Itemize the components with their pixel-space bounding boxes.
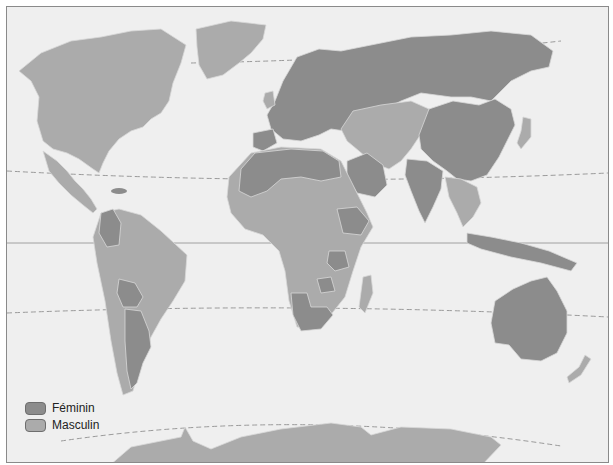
legend-label: Féminin (52, 401, 95, 415)
region-indonesia (467, 233, 577, 271)
region-southeast-asia (445, 177, 481, 227)
world-map (7, 7, 608, 462)
region-caribbean (111, 188, 127, 194)
region-madagascar (359, 275, 373, 313)
legend-swatch-feminin (25, 402, 46, 415)
region-india (405, 159, 443, 223)
region-new-zealand (567, 355, 591, 383)
legend-label: Masculin (52, 418, 99, 432)
region-australia (491, 277, 567, 361)
region-greenland (196, 21, 266, 79)
region-japan (517, 117, 531, 149)
map-legend: Féminin Masculin (25, 400, 99, 434)
region-iberia (253, 129, 277, 151)
legend-item-feminin: Féminin (25, 400, 99, 416)
legend-swatch-masculin (25, 419, 46, 432)
region-uk (263, 91, 275, 109)
map-frame: Féminin Masculin (6, 6, 609, 463)
legend-item-masculin: Masculin (25, 417, 99, 433)
